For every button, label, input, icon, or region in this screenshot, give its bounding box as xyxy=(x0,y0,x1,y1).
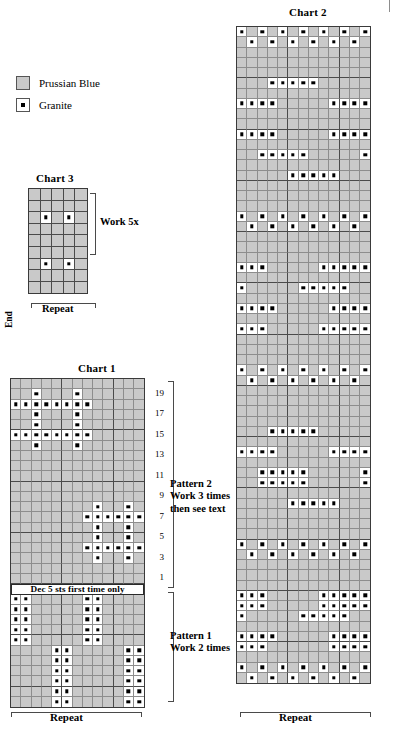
chart-cell xyxy=(114,410,124,420)
chart-cell xyxy=(268,201,278,211)
chart-cell xyxy=(73,594,83,604)
chart-cell xyxy=(268,242,278,252)
chart-cell xyxy=(32,379,42,389)
chart-cell xyxy=(268,396,278,406)
chart-cell xyxy=(268,488,278,498)
chart-cell xyxy=(340,27,350,37)
chart-cell xyxy=(299,232,309,242)
chart-row xyxy=(237,611,370,621)
chart-cell xyxy=(329,27,339,37)
chart-cell xyxy=(11,482,21,492)
chart-cell xyxy=(73,564,83,574)
chart-cell xyxy=(124,512,134,522)
chart-cell xyxy=(124,666,134,676)
legend-item-prussian-blue: Prussian Blue xyxy=(16,72,100,94)
chart-row xyxy=(237,119,370,129)
chart-cell xyxy=(329,345,339,355)
chart-cell xyxy=(350,396,360,406)
chart-cell xyxy=(93,471,103,481)
chart-cell xyxy=(288,109,298,119)
chart-cell xyxy=(124,400,134,410)
chart-cell xyxy=(288,140,298,150)
chart-cell xyxy=(288,519,298,529)
chart-row xyxy=(11,574,144,584)
chart-cell xyxy=(103,656,113,666)
chart-cell xyxy=(278,673,288,683)
chart-cell xyxy=(268,37,278,47)
chart-cell xyxy=(340,335,350,345)
chart-cell xyxy=(360,335,370,345)
chart-cell xyxy=(360,130,370,140)
chart-cell xyxy=(309,212,319,222)
chart-cell xyxy=(52,666,62,676)
chart-cell xyxy=(103,605,113,615)
chart-cell xyxy=(258,540,268,550)
chart-cell xyxy=(309,529,319,539)
chart-cell xyxy=(278,212,288,222)
chart-cell xyxy=(237,345,247,355)
chart-cell xyxy=(42,676,52,686)
chart-cell xyxy=(319,324,329,334)
chart-cell xyxy=(258,529,268,539)
chart-cell xyxy=(278,509,288,519)
chart-cell xyxy=(93,564,103,574)
chart-cell xyxy=(309,191,319,201)
chart-cell xyxy=(329,396,339,406)
chart-cell xyxy=(340,622,350,632)
chart-cell xyxy=(360,191,370,201)
chart-cell xyxy=(52,389,62,399)
chart-cell xyxy=(83,553,93,563)
chart-cell xyxy=(52,553,62,563)
chart-cell xyxy=(350,253,360,263)
chart-cell xyxy=(247,488,257,498)
chart-cell xyxy=(319,673,329,683)
chart-cell xyxy=(21,420,31,430)
chart-cell xyxy=(299,355,309,365)
chart-row xyxy=(29,224,87,236)
chart-cell xyxy=(329,109,339,119)
chart-cell xyxy=(329,48,339,58)
chart-cell xyxy=(258,673,268,683)
chart-cell xyxy=(41,212,53,224)
chart-cell xyxy=(124,646,134,656)
chart-cell xyxy=(340,232,350,242)
chart-cell xyxy=(124,625,134,635)
chart-cell xyxy=(83,666,93,676)
chart-row xyxy=(237,488,370,498)
chart-cell xyxy=(329,263,339,273)
chart-cell xyxy=(360,550,370,560)
chart-cell xyxy=(11,461,21,471)
chart-cell xyxy=(268,355,278,365)
chart-cell xyxy=(309,99,319,109)
chart-cell xyxy=(299,591,309,601)
chart-cell xyxy=(258,663,268,673)
chart-cell xyxy=(41,224,53,236)
chart-cell xyxy=(237,150,247,160)
chart-cell xyxy=(52,533,62,543)
chart-cell xyxy=(103,676,113,686)
chart-row xyxy=(237,160,370,170)
chart-cell xyxy=(114,523,124,533)
chart-cell xyxy=(247,324,257,334)
chart-cell xyxy=(134,564,144,574)
chart-cell xyxy=(278,201,288,211)
chart-cell xyxy=(21,379,31,389)
chart-cell xyxy=(93,553,103,563)
chart-cell xyxy=(247,468,257,478)
chart-cell xyxy=(350,242,360,252)
chart-cell xyxy=(350,212,360,222)
chart-cell xyxy=(299,263,309,273)
chart-cell xyxy=(340,99,350,109)
chart-cell xyxy=(329,150,339,160)
chart-cell xyxy=(299,642,309,652)
chart-cell xyxy=(319,27,329,37)
chart-cell xyxy=(350,406,360,416)
chart-cell xyxy=(340,376,350,386)
chart-cell xyxy=(360,417,370,427)
chart-cell xyxy=(93,410,103,420)
chart-cell xyxy=(62,389,72,399)
chart-cell xyxy=(278,78,288,88)
chart-cell xyxy=(350,611,360,621)
chart-cell xyxy=(299,376,309,386)
chart-row xyxy=(237,417,370,427)
